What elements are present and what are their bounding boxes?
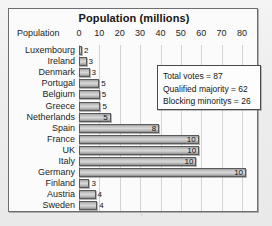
bar-value-ireland: 3 — [89, 57, 93, 66]
bar-germany[interactable] — [79, 168, 246, 177]
bar-value-netherlands: 5 — [103, 113, 107, 122]
bar-row-label-finland: Finland — [9, 178, 75, 189]
chart-title: Population (millions) — [9, 12, 259, 24]
bar-container-netherlands: 5 — [79, 113, 111, 122]
bar-row-label-italy: Italy — [9, 156, 75, 167]
bar-value-greece: 5 — [102, 102, 106, 111]
bar-row-label-spain: Spain — [9, 123, 75, 134]
bar-container-germany: 10 — [79, 168, 246, 177]
bar-value-italy: 10 — [184, 157, 193, 166]
bar-france[interactable] — [79, 135, 199, 144]
info-line-0: Total votes = 87 — [163, 70, 260, 83]
bar-row-label-netherlands: Netherlands — [9, 112, 75, 123]
bar-row-label-ireland: Ireland — [9, 56, 75, 67]
x-tick-label-70: 70 — [214, 28, 230, 38]
bar-row-label-germany: Germany — [9, 167, 75, 178]
bar-container-ireland: 3 — [79, 57, 87, 66]
bar-value-spain: 8 — [152, 124, 156, 133]
bar-row-label-denmark: Denmark — [9, 67, 75, 78]
bar-uk[interactable] — [79, 146, 199, 155]
bar-ireland[interactable] — [79, 57, 87, 66]
bar-row-label-sweden: Sweden — [9, 200, 75, 211]
x-tick-label-0: 0 — [71, 28, 87, 38]
bar-row-label-belgium: Belgium — [9, 89, 75, 100]
bar-container-denmark: 3 — [79, 68, 90, 77]
x-tick-label-20: 20 — [112, 28, 128, 38]
bar-value-luxembourg: 2 — [84, 46, 88, 55]
bar-container-belgium: 5 — [79, 90, 100, 99]
bar-value-germany: 10 — [234, 168, 243, 177]
info-line-2: Blocking minoritys = 26 — [163, 95, 260, 108]
bar-row: Luxembourg2 — [9, 45, 259, 56]
bar-portugal[interactable] — [79, 79, 99, 88]
x-axis: Population 01020304050607080 — [9, 28, 259, 40]
bar-container-sweden: 4 — [79, 201, 97, 210]
x-tick-label-40: 40 — [153, 28, 169, 38]
x-tick-label-10: 10 — [91, 28, 107, 38]
bar-row-label-portugal: Portugal — [9, 78, 75, 89]
bar-row: Austria4 — [9, 189, 259, 200]
bar-container-finland: 3 — [79, 179, 89, 188]
bar-row: Germany10 — [9, 167, 259, 178]
bar-row-label-greece: Greece — [9, 101, 75, 112]
bar-sweden[interactable] — [79, 201, 97, 210]
bar-row: Spain8 — [9, 123, 259, 134]
bar-container-italy: 10 — [79, 157, 196, 166]
bar-row-label-austria: Austria — [9, 189, 75, 200]
bar-container-austria: 4 — [79, 190, 96, 199]
bar-row: France10 — [9, 134, 259, 145]
x-tick-label-50: 50 — [173, 28, 189, 38]
x-tick-label-80: 80 — [234, 28, 250, 38]
bar-spain[interactable] — [79, 124, 159, 133]
bar-container-greece: 5 — [79, 102, 100, 111]
bar-luxembourg[interactable] — [79, 46, 82, 55]
bar-italy[interactable] — [79, 157, 196, 166]
bar-austria[interactable] — [79, 190, 96, 199]
bar-row-label-luxembourg: Luxembourg — [9, 45, 75, 56]
info-line-1: Qualified majority = 62 — [163, 83, 260, 96]
bar-row: Italy10 — [9, 156, 259, 167]
bar-value-uk: 10 — [187, 146, 196, 155]
bar-row-label-france: France — [9, 134, 75, 145]
bar-finland[interactable] — [79, 179, 89, 188]
x-axis-caption: Population — [17, 28, 60, 38]
bar-row: Sweden4 — [9, 200, 259, 211]
x-tick-label-30: 30 — [132, 28, 148, 38]
bar-row: Finland3 — [9, 178, 259, 189]
bar-row: Netherlands5 — [9, 112, 259, 123]
bar-value-sweden: 4 — [99, 201, 103, 210]
bar-container-luxembourg: 2 — [79, 46, 82, 55]
bar-value-austria: 4 — [98, 190, 102, 199]
bar-denmark[interactable] — [79, 68, 90, 77]
bar-container-spain: 8 — [79, 124, 159, 133]
bar-value-france: 10 — [187, 135, 196, 144]
bar-container-france: 10 — [79, 135, 199, 144]
bar-row: UK10 — [9, 145, 259, 156]
bar-value-finland: 3 — [91, 179, 95, 188]
bar-greece[interactable] — [79, 102, 100, 111]
bar-value-portugal: 5 — [101, 79, 105, 88]
bar-row-label-uk: UK — [9, 145, 75, 156]
bar-container-portugal: 5 — [79, 79, 99, 88]
info-box: Total votes = 87Qualified majority = 62B… — [157, 65, 261, 110]
bar-value-denmark: 3 — [92, 68, 96, 77]
bar-value-belgium: 5 — [102, 90, 106, 99]
x-tick-label-60: 60 — [193, 28, 209, 38]
chart-frame: Population (millions) Population 0102030… — [8, 8, 258, 212]
bar-belgium[interactable] — [79, 90, 100, 99]
chart-page: Population (millions) Population 0102030… — [0, 0, 272, 226]
bar-container-uk: 10 — [79, 146, 199, 155]
